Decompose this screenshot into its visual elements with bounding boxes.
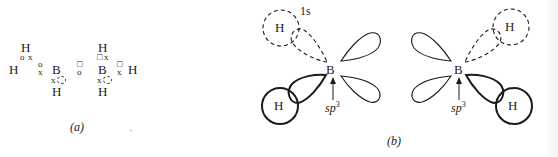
page-edge-shadow (546, 0, 558, 157)
label-1s: 1s (300, 4, 311, 19)
label-sp3-right: sp3 (451, 100, 466, 116)
atom-h-dashed-left: H (275, 21, 284, 34)
atom-b-left: B (326, 63, 335, 76)
sp3-lobe-lower-left-bold (289, 75, 326, 103)
sp-superscript: 3 (462, 100, 466, 109)
sp-text: sp (325, 101, 336, 115)
sp3-lobe-dashed-upper-left (291, 29, 327, 62)
sp3-lobe-lower-left (412, 76, 451, 102)
atom-h-solid-right: H (508, 99, 517, 112)
atom-b-right: B (454, 63, 463, 76)
label-sp3-left: sp3 (325, 100, 340, 116)
sp3-lobe-upper-left (412, 33, 451, 61)
caption-b: (b) (387, 134, 401, 149)
atom-h-dashed-right: H (505, 20, 514, 33)
sp3-lobe-upper-right (341, 33, 380, 61)
sp-superscript: 3 (336, 100, 340, 109)
sp3-lobe-lower-right (341, 76, 380, 102)
label-1s-text: 1s (300, 4, 311, 18)
sp3-lobe-dashed-upper-right (465, 29, 501, 62)
atom-h-solid-left: H (274, 99, 283, 112)
sp-text: sp (451, 101, 462, 115)
